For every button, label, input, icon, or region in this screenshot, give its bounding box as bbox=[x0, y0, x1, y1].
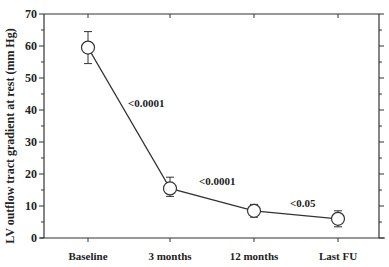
data-point-marker bbox=[164, 182, 177, 195]
x-tick-label: Last FU bbox=[319, 250, 357, 262]
p-value-label: <0.0001 bbox=[128, 97, 165, 109]
y-tick-label: 60 bbox=[25, 39, 37, 53]
y-tick-label: 40 bbox=[25, 103, 37, 117]
x-tick-label: Baseline bbox=[68, 250, 107, 262]
x-tick-label: 12 months bbox=[230, 250, 279, 262]
x-axis-tick-labels: Baseline3 months12 monthsLast FU bbox=[68, 250, 357, 262]
line-chart: 010203040506070 Baseline3 months12 month… bbox=[0, 0, 389, 267]
data-point-marker bbox=[248, 204, 261, 217]
y-tick-label: 10 bbox=[25, 199, 37, 213]
y-tick-label: 0 bbox=[31, 231, 37, 245]
y-axis-tick-labels: 010203040506070 bbox=[25, 7, 37, 245]
data-point-marker bbox=[82, 41, 95, 54]
y-tick-label: 70 bbox=[25, 7, 37, 21]
p-value-label: <0.05 bbox=[290, 197, 316, 209]
data-point-marker bbox=[332, 212, 345, 225]
series-line bbox=[88, 48, 338, 219]
y-axis-title: LV outflow tract gradient at rest (mm Hg… bbox=[3, 28, 17, 243]
x-tick-label: 3 months bbox=[148, 250, 192, 262]
y-tick-label: 50 bbox=[25, 71, 37, 85]
p-value-annotations: <0.0001<0.0001<0.05 bbox=[128, 97, 316, 209]
y-tick-label: 30 bbox=[25, 135, 37, 149]
y-tick-label: 20 bbox=[25, 167, 37, 181]
p-value-label: <0.0001 bbox=[199, 175, 236, 187]
